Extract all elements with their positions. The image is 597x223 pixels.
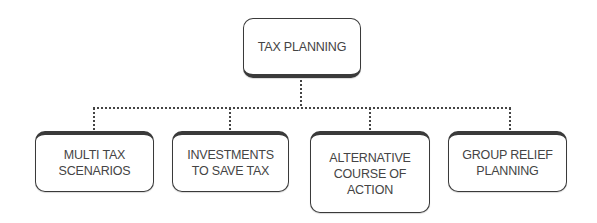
child-node-label: MULTI TAX SCENARIOS [59, 147, 131, 179]
child-node-multi-tax-scenarios: MULTI TAX SCENARIOS [35, 131, 154, 192]
connector-drop-1 [93, 108, 95, 130]
child-node-label: INVESTMENTS TO SAVE TAX [187, 147, 274, 179]
connector-drop-3 [369, 108, 371, 130]
connector-root-vertical [300, 80, 302, 106]
child-node-group-relief-planning: GROUP RELIEF PLANNING [448, 131, 567, 192]
child-node-investments-to-save-tax: INVESTMENTS TO SAVE TAX [172, 131, 289, 192]
child-node-label: GROUP RELIEF PLANNING [462, 147, 552, 179]
tax-planning-diagram: TAX PLANNING MULTI TAX SCENARIOS INVESTM… [0, 0, 597, 223]
connector-horizontal-bar [93, 107, 511, 109]
connector-drop-4 [509, 108, 511, 130]
connector-drop-2 [229, 108, 231, 130]
child-node-label: ALTERNATIVE COURSE OF ACTION [329, 150, 410, 198]
child-node-alternative-course-of-action: ALTERNATIVE COURSE OF ACTION [310, 131, 430, 213]
root-node-label: TAX PLANNING [258, 39, 346, 55]
root-node-tax-planning: TAX PLANNING [243, 18, 361, 78]
